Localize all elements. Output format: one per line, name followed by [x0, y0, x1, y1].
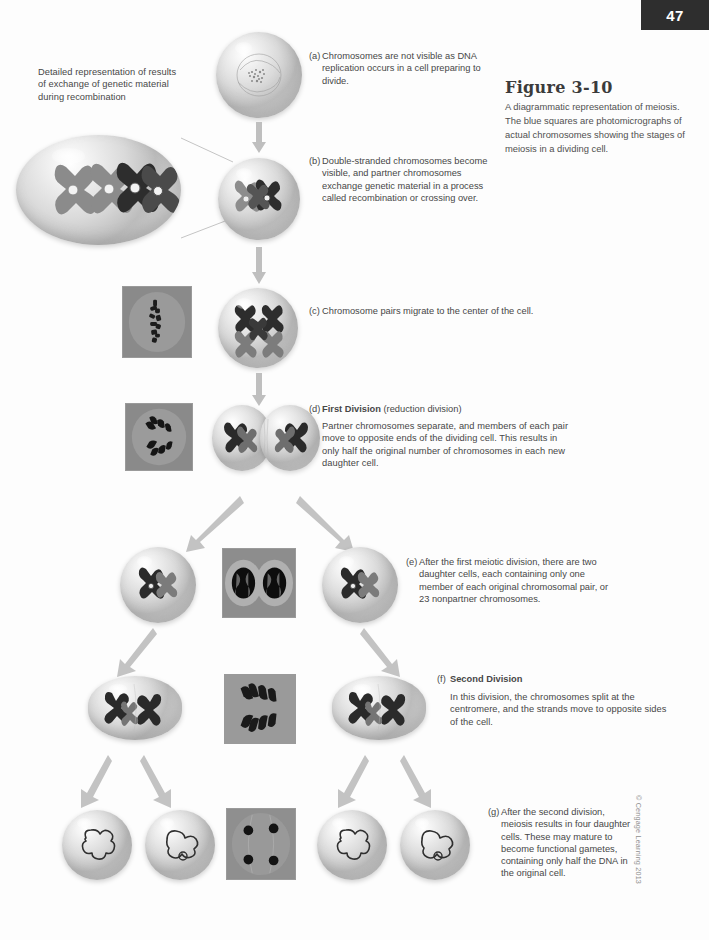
- cell-stage-g-4: [400, 810, 470, 880]
- step-text-g: (g) After the second division, meiosis r…: [488, 806, 638, 880]
- arrow-a-to-b: [251, 122, 267, 154]
- step-d-heading-suffix: (reduction division): [384, 404, 462, 414]
- dna-strand-g1: [62, 810, 132, 880]
- chromosomes-stage-e-right: [322, 547, 398, 623]
- step-d-heading: First Division: [322, 404, 381, 414]
- cell-stage-f-right: [332, 676, 426, 740]
- step-f-heading: Second Division: [450, 674, 522, 684]
- step-text-e: (e) After the first meiotic division, th…: [406, 556, 621, 605]
- cell-stage-a: [216, 32, 302, 118]
- step-label-g: (g): [488, 806, 501, 818]
- arrow-f-to-g-inner-left: [140, 753, 174, 811]
- page-number-badge: 47: [641, 0, 709, 30]
- arrow-f-to-g-outer-right: [400, 753, 434, 811]
- chromosomes-magnified: [16, 135, 181, 245]
- arrow-e-to-f-left: [113, 626, 157, 680]
- detail-note: Detailed representation of results of ex…: [38, 66, 178, 103]
- photomicrograph-stage-g: [226, 808, 296, 880]
- step-text-a: (a) Chromosomes are not visible as DNA r…: [309, 50, 489, 87]
- step-label-d-heading: (d) First Division (reduction division): [309, 403, 559, 415]
- arrow-e-to-f-right: [360, 626, 404, 680]
- arrow-f-to-g-inner-right: [335, 753, 369, 811]
- step-text-c: (c) Chromosome pairs migrate to the cent…: [309, 305, 539, 317]
- figure-caption: A diagrammatic representation of meiosis…: [505, 100, 690, 156]
- copyright-notice: © Cengage Learning 2013: [634, 795, 643, 884]
- cell-stage-g-2: [145, 810, 215, 880]
- cell-stage-c: [218, 288, 298, 368]
- cell-stage-b: [218, 158, 300, 240]
- step-label-a: (a): [309, 50, 322, 62]
- chromosomes-stage-f-right: [332, 676, 426, 740]
- chromosomes-stage-f-left: [88, 676, 182, 740]
- step-label-b: (b): [309, 155, 322, 167]
- step-text-b: (b) Double-stranded chromosomes become v…: [309, 155, 499, 204]
- cell-stage-g-3: [317, 810, 387, 880]
- chromosomes-stage-c: [218, 288, 298, 368]
- arrow-c-to-d: [251, 373, 267, 407]
- photomicrograph-stage-e: [222, 548, 296, 618]
- chromosomes-stage-e-left: [120, 547, 196, 623]
- arrow-f-to-g-outer-left: [78, 753, 112, 811]
- figure-title: Figure 3-10: [505, 78, 613, 97]
- step-label-f-heading: (f) Second Division: [437, 673, 667, 685]
- cell-stage-g-1: [62, 810, 132, 880]
- dna-strand-g4: [400, 810, 470, 880]
- cell-stage-f-left: [88, 676, 182, 740]
- cell-magnified-recombination: [16, 135, 181, 245]
- dna-strand-g3: [317, 810, 387, 880]
- nucleus-illustration: [216, 32, 302, 118]
- step-label-c: (c): [309, 305, 322, 317]
- step-label-f: (f): [437, 673, 450, 685]
- dna-strand-g2: [145, 810, 215, 880]
- step-label-e: (e): [406, 556, 419, 568]
- photomicrograph-stage-f: [224, 674, 296, 744]
- step-text-d: Partner chromosomes separate, and member…: [322, 420, 572, 469]
- chromosomes-stage-b: [218, 158, 300, 240]
- chromosomes-stage-d: [212, 405, 320, 471]
- photomicrograph-stage-d: [125, 403, 193, 471]
- cell-stage-e-right: [322, 547, 398, 623]
- cell-stage-d: [212, 405, 320, 471]
- photomicrograph-stage-c: [122, 286, 192, 358]
- arrow-b-to-c: [251, 247, 267, 285]
- textbook-page: 47 (a) Chromosomes are not visible as DN…: [0, 0, 709, 940]
- step-label-d: (d): [309, 403, 322, 415]
- cell-stage-e-left: [120, 547, 196, 623]
- step-text-f: In this division, the chromosomes split …: [450, 691, 674, 728]
